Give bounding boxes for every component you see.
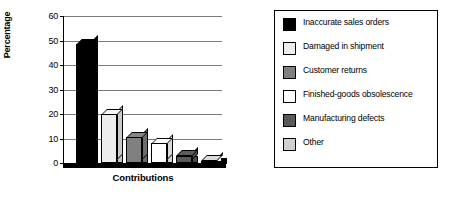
legend-label: Finished-goods obsolescence	[303, 89, 413, 100]
y-axis-tick-label: 40	[48, 60, 58, 70]
bar-front-face	[176, 156, 192, 163]
legend-label: Other	[303, 137, 324, 148]
y-axis-title: Percentage	[2, 0, 12, 80]
legend-item: Other	[283, 137, 437, 157]
legend-swatch	[283, 18, 296, 31]
legend: Inaccurate sales ordersDamaged in shipme…	[274, 10, 438, 168]
bar-front-face	[76, 44, 92, 163]
y-axis-tick-labels: 6050403020100	[30, 10, 58, 166]
y-axis-tick-label: 60	[48, 11, 58, 21]
bar	[151, 137, 173, 163]
legend-item: Customer returns	[283, 65, 437, 85]
bar-side-face	[92, 35, 98, 160]
legend-item: Manufacturing defects	[283, 113, 437, 133]
axis-floor	[63, 163, 226, 168]
bar-front-face	[101, 114, 117, 163]
legend-swatch	[283, 114, 296, 127]
bars-layer	[63, 16, 227, 163]
bar	[76, 38, 98, 163]
legend-label: Inaccurate sales orders	[303, 17, 389, 28]
legend-item: Damaged in shipment	[283, 41, 437, 61]
legend-label: Manufacturing defects	[303, 113, 384, 124]
bar-front-face	[151, 143, 167, 163]
bar	[101, 108, 123, 163]
y-axis-tick-label: 0	[53, 158, 58, 168]
legend-swatch	[283, 42, 296, 55]
bar	[126, 131, 148, 163]
y-axis-tick-label: 30	[48, 85, 58, 95]
y-axis-tick-label: 10	[48, 134, 58, 144]
bar	[201, 155, 223, 163]
axis-floor-side	[221, 158, 227, 164]
legend-item: Finished-goods obsolescence	[283, 89, 437, 109]
legend-label: Customer returns	[303, 65, 367, 76]
bar-chart: Percentage 6050403020100 Contributions	[0, 0, 270, 198]
legend-item: Inaccurate sales orders	[283, 17, 437, 37]
legend-swatch	[283, 90, 296, 103]
legend-swatch	[283, 138, 296, 151]
bar-front-face	[126, 137, 142, 163]
y-axis-tick-label: 20	[48, 109, 58, 119]
legend-label: Damaged in shipment	[303, 41, 384, 52]
y-axis-tick-label: 50	[48, 36, 58, 46]
x-axis-title: Contributions	[63, 172, 223, 183]
legend-swatch	[283, 66, 296, 79]
bar	[176, 150, 198, 163]
